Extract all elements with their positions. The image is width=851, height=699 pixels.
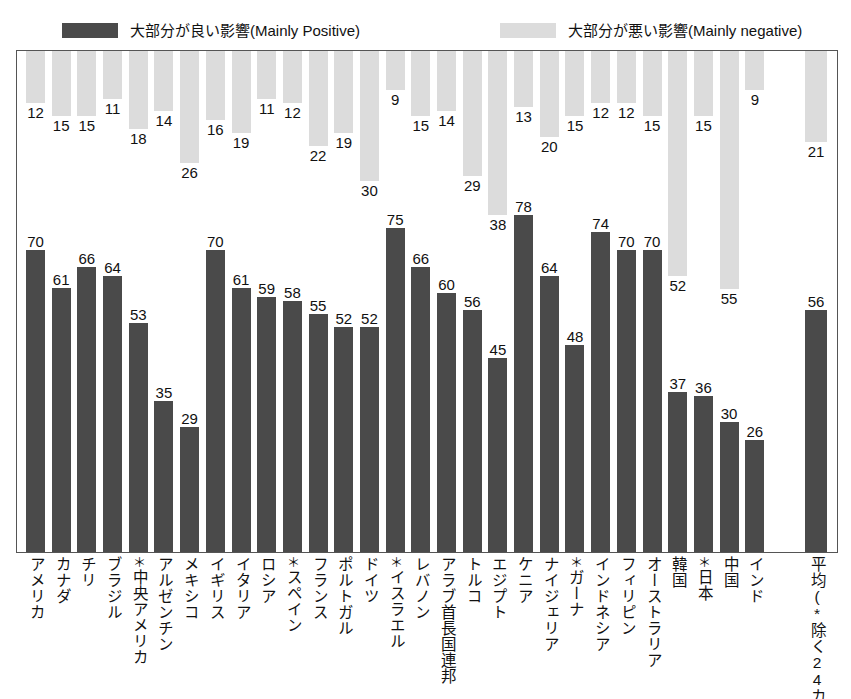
x-axis-label: トルコ bbox=[461, 556, 482, 699]
bar-positive-value: 56 bbox=[798, 294, 834, 309]
x-axis-label: レバノン bbox=[409, 556, 430, 699]
chart-column: 1853 bbox=[129, 51, 148, 552]
chart-column: 2064 bbox=[540, 51, 559, 552]
bar-negative-value: 38 bbox=[481, 217, 514, 232]
bar-negative bbox=[386, 51, 405, 90]
bar-negative bbox=[334, 51, 353, 133]
bar-positive-value: 35 bbox=[147, 385, 180, 400]
bar-negative bbox=[52, 51, 71, 116]
bar-positive bbox=[103, 276, 122, 552]
x-axis-label: フィリピン bbox=[615, 556, 636, 699]
legend-label-positive: 大部分が良い影響(Mainly Positive) bbox=[130, 23, 360, 38]
bar-positive bbox=[129, 323, 148, 552]
chart-column: 2255 bbox=[309, 51, 328, 552]
bar-positive-value: 52 bbox=[353, 311, 386, 326]
bar-positive-value: 66 bbox=[404, 251, 437, 266]
bar-negative bbox=[360, 51, 379, 181]
bar-negative-value: 20 bbox=[533, 139, 566, 154]
x-axis-label: カナダ bbox=[50, 556, 71, 699]
x-axis-label: ＊スペイン bbox=[281, 556, 302, 699]
x-axis-label: インド bbox=[743, 556, 764, 699]
bar-negative bbox=[26, 51, 45, 103]
bar-negative bbox=[488, 51, 507, 215]
bar-negative-value: 19 bbox=[327, 135, 360, 150]
bar-negative-value: 21 bbox=[798, 144, 834, 159]
bar-positive bbox=[52, 288, 71, 552]
bar-negative bbox=[668, 51, 687, 276]
chart-column: 975 bbox=[386, 51, 405, 552]
cropped-title-strip bbox=[0, 0, 851, 12]
chart-plot-frame: 1270156115661164185314352629167019611159… bbox=[16, 50, 838, 553]
bar-negative bbox=[77, 51, 96, 116]
bar-positive bbox=[386, 228, 405, 552]
bar-negative-value: 11 bbox=[96, 101, 129, 116]
bar-positive bbox=[154, 401, 173, 552]
bar-positive-value: 26 bbox=[738, 424, 771, 439]
x-axis-label: ＊中央アメリカ bbox=[127, 556, 148, 699]
x-axis-label: チリ bbox=[75, 556, 96, 699]
bar-positive bbox=[360, 327, 379, 552]
bar-negative bbox=[745, 51, 764, 90]
asterisk-icon: ＊ bbox=[132, 556, 147, 569]
x-axis-label: ケニア bbox=[512, 556, 533, 699]
bar-negative bbox=[643, 51, 662, 116]
chart-x-axis-labels: アメリカカナダチリブラジル＊中央アメリカアルゼンチンメキシコイギリスイタリアロシ… bbox=[16, 556, 838, 699]
chart-column: 1159 bbox=[257, 51, 276, 552]
bar-negative bbox=[257, 51, 276, 99]
asterisk-icon: ＊ bbox=[697, 556, 712, 569]
bar-positive bbox=[232, 288, 251, 552]
bar-negative-value: 12 bbox=[276, 105, 309, 120]
chart-column: 1561 bbox=[52, 51, 71, 552]
x-axis-label: メキシコ bbox=[178, 556, 199, 699]
bar-negative-value: 30 bbox=[353, 183, 386, 198]
bar-negative-value: 9 bbox=[379, 92, 412, 107]
bar-positive bbox=[565, 345, 584, 552]
chart-column: 1548 bbox=[565, 51, 584, 552]
bar-positive bbox=[283, 301, 302, 552]
bar-negative-value: 15 bbox=[70, 118, 103, 133]
x-axis-label: イギリス bbox=[204, 556, 225, 699]
x-axis-label: アラブ首長国連邦 bbox=[435, 556, 456, 699]
bar-positive-value: 75 bbox=[379, 212, 412, 227]
x-axis-label: インドネシア bbox=[589, 556, 610, 699]
bar-positive bbox=[540, 276, 559, 552]
chart-legend: 大部分が良い影響(Mainly Positive) 大部分が悪い影響(Mainl… bbox=[0, 19, 851, 45]
bar-positive-value: 64 bbox=[96, 260, 129, 275]
x-axis-label: エジプト bbox=[486, 556, 507, 699]
bar-positive-value: 36 bbox=[687, 380, 720, 395]
bar-positive-value: 29 bbox=[173, 411, 206, 426]
chart-column: 2956 bbox=[463, 51, 482, 552]
x-axis-label: フランス bbox=[307, 556, 328, 699]
chart-column: 1570 bbox=[643, 51, 662, 552]
chart-column: 1460 bbox=[437, 51, 456, 552]
bar-negative-value: 19 bbox=[225, 135, 258, 150]
x-axis-label: 平均(*除く24カ国) bbox=[805, 556, 826, 699]
x-axis-label: アルゼンチン bbox=[152, 556, 173, 699]
x-axis-label: ＊ガーナ bbox=[563, 556, 584, 699]
chart-column: 1270 bbox=[26, 51, 45, 552]
bar-positive-value: 45 bbox=[481, 342, 514, 357]
bar-negative-value: 29 bbox=[456, 178, 489, 193]
bar-negative bbox=[437, 51, 456, 111]
bar-negative-value: 18 bbox=[122, 131, 155, 146]
chart-column: 5530 bbox=[720, 51, 739, 552]
bar-negative-value: 14 bbox=[430, 113, 463, 128]
chart-column: 1670 bbox=[206, 51, 225, 552]
bar-positive bbox=[411, 267, 430, 552]
asterisk-icon: ＊ bbox=[568, 556, 583, 569]
bar-positive bbox=[617, 250, 636, 552]
bar-negative bbox=[514, 51, 533, 107]
bar-negative bbox=[565, 51, 584, 116]
chart-column: 2156 bbox=[805, 51, 827, 552]
bar-negative-value: 9 bbox=[738, 92, 771, 107]
bar-positive-value: 74 bbox=[584, 216, 617, 231]
x-axis-label: 中国 bbox=[718, 556, 739, 699]
bar-positive bbox=[694, 396, 713, 552]
bar-negative bbox=[103, 51, 122, 99]
bar-positive bbox=[720, 422, 739, 552]
bar-positive-value: 70 bbox=[636, 234, 669, 249]
x-axis-label: ロシア bbox=[255, 556, 276, 699]
bar-negative bbox=[283, 51, 302, 103]
bar-negative bbox=[154, 51, 173, 111]
cropped-title-text bbox=[30, 0, 34, 5]
